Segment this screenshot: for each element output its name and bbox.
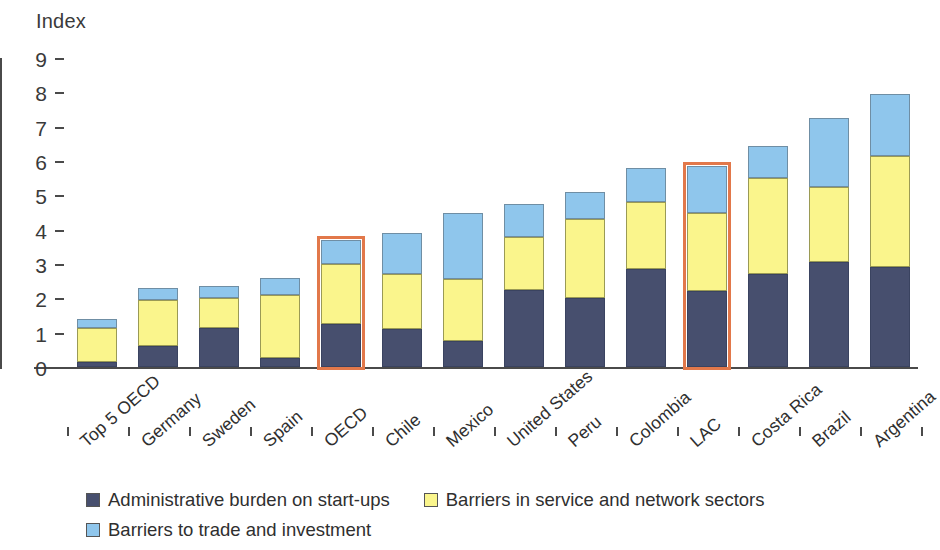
bar-stack[interactable] [382,58,422,367]
y-axis-tick-label: 4 [35,220,47,241]
x-axis-tick [738,427,740,436]
bar-stack[interactable] [199,58,239,367]
x-axis-tick [250,427,252,436]
bar-segment[interactable] [870,94,910,156]
bar-segment[interactable] [382,329,422,367]
x-axis-tick [677,427,679,436]
bar-segment[interactable] [809,187,849,263]
bar-segment[interactable] [382,274,422,329]
bar-segment[interactable] [565,192,605,219]
bar-segment[interactable] [443,279,483,341]
y-axis-tick-label: 3 [35,255,47,276]
x-axis-tick [189,427,191,436]
legend-item[interactable]: Administrative burden on start-ups [86,489,390,511]
x-axis-tick [555,427,557,436]
bar-segment[interactable] [870,156,910,268]
x-axis-tick [311,427,313,436]
x-axis-tick-label: Brazil [808,407,855,452]
bar-segment[interactable] [199,298,239,327]
bar-segment[interactable] [809,118,849,187]
bar-segment[interactable] [382,233,422,274]
bar-stack[interactable] [321,58,361,367]
x-axis-tick [494,427,496,436]
y-axis-title: Index [36,10,86,33]
chart-legend: Administrative burden on start-upsBarrie… [86,485,916,545]
bar-segment[interactable] [138,346,178,367]
x-axis-tick-label: OECD [320,403,372,452]
bar-segment[interactable] [504,237,544,290]
bar-stack[interactable] [443,58,483,367]
bar-segment[interactable] [321,264,361,324]
legend-swatch-icon [86,493,100,507]
bar-segment[interactable] [626,269,666,367]
y-axis-tick: 4 [55,230,64,232]
bar-segment[interactable] [504,204,544,237]
bar-stack[interactable] [138,58,178,367]
bar-segment[interactable] [199,286,239,298]
y-axis-tick: 0 [55,367,64,369]
y-axis-tick: 2 [55,298,64,300]
x-axis-tick-label: Mexico [442,399,498,452]
bar-segment[interactable] [748,274,788,367]
bar-stack[interactable] [870,58,910,367]
y-axis-line [0,58,2,369]
bar-stack[interactable] [504,58,544,367]
bar-segment[interactable] [870,267,910,367]
legend-item[interactable]: Barriers in service and network sectors [424,489,765,511]
bar-segment[interactable] [260,295,300,359]
x-axis-tick-label: Peru [564,411,606,451]
bar-segment[interactable] [443,213,483,280]
x-axis-tick-label: Colombia [625,387,695,452]
x-axis-tick [372,427,374,436]
bar-segment[interactable] [748,146,788,179]
bar-segment[interactable] [443,341,483,367]
bar-stack[interactable] [748,58,788,367]
x-axis-tick-label: Argentina [869,386,940,452]
legend-item[interactable]: Barriers to trade and investment [86,519,371,541]
bar-segment[interactable] [687,291,727,367]
y-axis-tick-label: 8 [35,83,47,104]
bar-stack[interactable] [626,58,666,367]
legend-label: Barriers to trade and investment [108,519,371,541]
bar-stack[interactable] [77,58,117,367]
y-axis-tick-label: 5 [35,186,47,207]
bar-segment[interactable] [626,168,666,202]
bar-stack[interactable] [809,58,849,367]
bar-segment[interactable] [77,328,117,362]
bar-stack[interactable] [260,58,300,367]
x-axis-tick-label: Spain [259,406,307,452]
bar-segment[interactable] [321,324,361,367]
y-axis-tick: 9 [55,58,64,60]
bar-segment[interactable] [687,213,727,292]
legend-row: Administrative burden on start-upsBarrie… [86,485,916,515]
x-axis-tick [616,427,618,436]
y-axis-tick: 8 [55,92,64,94]
bar-segment[interactable] [565,219,605,298]
bar-segment[interactable] [748,178,788,274]
bar-segment[interactable] [687,166,727,212]
bar-segment[interactable] [260,278,300,295]
y-axis-tick: 1 [55,333,64,335]
bar-segment[interactable] [504,290,544,367]
bar-segment[interactable] [138,288,178,300]
bar-segment[interactable] [199,328,239,367]
x-axis-tick-label: Sweden [198,394,260,452]
bar-segment[interactable] [138,300,178,346]
bar-segment[interactable] [77,319,117,328]
bar-segment[interactable] [565,298,605,367]
legend-row: Barriers to trade and investment [86,515,916,545]
bar-segment[interactable] [626,202,666,269]
bar-segment[interactable] [260,358,300,367]
bar-stack[interactable] [687,58,727,367]
y-axis-tick-label: 9 [35,49,47,70]
x-axis-tick-label: LAC [686,413,726,451]
x-axis-tick [128,427,130,436]
bar-stack[interactable] [565,58,605,367]
y-axis-tick: 6 [55,161,64,163]
bar-segment[interactable] [321,240,361,264]
bar-segment[interactable] [809,262,849,367]
plot-area: 0123456789 Top 5 OECDGermanySwedenSpainO… [64,58,916,367]
bar-segment[interactable] [77,362,117,367]
x-axis-tick [67,427,69,436]
